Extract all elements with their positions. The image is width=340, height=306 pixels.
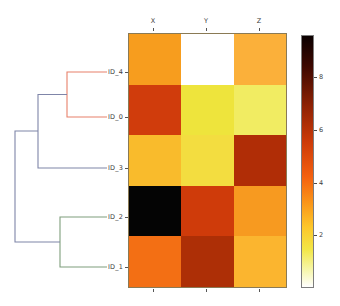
heatmap-cell-id_3-z [234,135,286,186]
colorbar-tick-4 [314,183,317,184]
heatmap-cell-id_2-y [181,186,233,237]
heatmap-cell-id_4-x [129,34,181,85]
column-tick-top-z [259,28,260,31]
heatmap-cell-id_1-x [129,236,181,287]
column-tick-top-x [153,28,154,31]
column-label-x: X [138,17,168,25]
row-dendrogram [0,0,128,306]
heatmap-cell-id_4-y [181,34,233,85]
column-tick-bottom-y [206,289,207,292]
row-label-id-4: ID_4 [108,68,123,76]
heatmap-grid [128,33,287,288]
heatmap-cell-id_0-z [234,85,286,136]
clustermap-figure: ID_4 ID_0 ID_3 ID_2 ID_1 X Y Z 2468 [0,0,340,306]
colorbar-tick-8 [314,77,317,78]
column-tick-bottom-z [259,289,260,292]
row-label-id-1: ID_1 [108,263,123,271]
heatmap-cell-id_2-z [234,186,286,237]
heatmap-cell-id_0-x [129,85,181,136]
heatmap-cell-id_2-x [129,186,181,237]
heatmap-cell-id_4-z [234,34,286,85]
dendro-link-merge-id4-id0 [67,72,107,117]
colorbar-label-8: 8 [319,73,323,81]
heatmap-cell-id_1-z [234,236,286,287]
colorbar-label-4: 4 [319,179,323,187]
colorbar-label-2: 2 [319,231,323,239]
colorbar-gradient [302,36,313,287]
heatmap-cell-id_1-y [181,236,233,287]
column-tick-top-y [206,28,207,31]
heatmap-cell-id_3-x [129,135,181,186]
colorbar-tick-2 [314,235,317,236]
column-tick-bottom-x [153,289,154,292]
column-label-y: Y [191,17,221,25]
colorbar-label-6: 6 [319,126,323,134]
row-label-id-0: ID_0 [108,113,123,121]
row-label-id-3: ID_3 [108,164,123,172]
heatmap-cell-id_3-y [181,135,233,186]
column-label-z: Z [244,17,274,25]
row-label-id-2: ID_2 [108,213,123,221]
dendro-link-merge-id2-id1 [60,217,107,267]
dendro-link-merge-redcluster-id3 [38,95,107,169]
heatmap-cell-id_0-y [181,85,233,136]
colorbar [301,35,314,288]
colorbar-tick-6 [314,130,317,131]
